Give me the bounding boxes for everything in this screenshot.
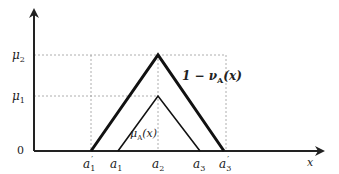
mu1-label: μ1 bbox=[12, 89, 25, 105]
ifs-membership-diagram: μ2 μ1 0 a1′ a1 a2 a3 a3′ x 1 − νA(x) μA(… bbox=[0, 0, 339, 174]
outer-curve-label: 1 − νA(x) bbox=[182, 69, 242, 85]
inner-curve-label: μA(x) bbox=[130, 127, 157, 142]
zero-label: 0 bbox=[17, 144, 24, 157]
mu2-label: μ2 bbox=[12, 48, 25, 64]
a3-prime-label: a3′ bbox=[219, 154, 231, 173]
a3-label: a3 bbox=[193, 157, 205, 173]
x-axis-label: x bbox=[307, 156, 314, 169]
a2-label: a2 bbox=[152, 157, 164, 173]
a1-prime-label: a1′ bbox=[83, 154, 95, 173]
inner-triangle bbox=[118, 96, 200, 151]
a1-label: a1 bbox=[110, 157, 122, 173]
